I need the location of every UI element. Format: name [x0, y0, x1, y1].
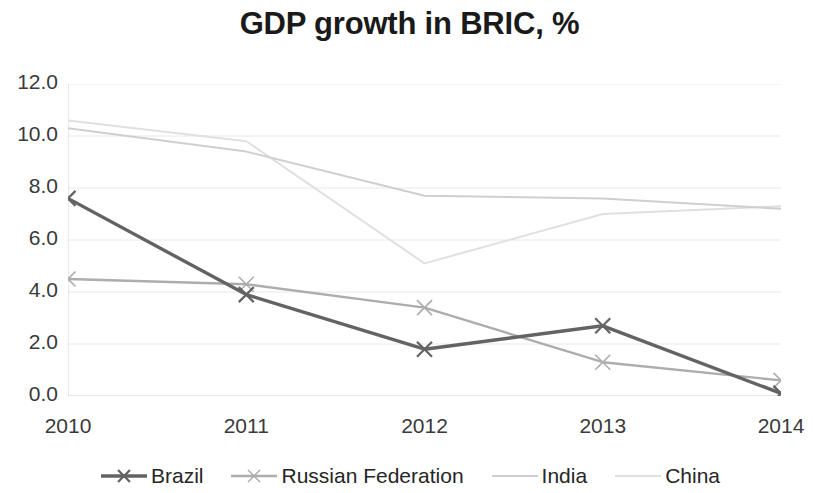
y-axis-tick-label: 4.0 [2, 278, 58, 302]
legend-item-china[interactable]: China [613, 464, 720, 488]
legend-swatch [229, 467, 279, 485]
gdp-growth-chart: GDP growth in BRIC, % 0.02.04.06.08.010.… [0, 0, 819, 493]
legend-label: China [665, 464, 720, 488]
legend-label: Brazil [151, 464, 204, 488]
x-axis-tick-label: 2014 [721, 414, 819, 438]
y-axis-tick-label: 12.0 [2, 70, 58, 94]
data-point-marker [68, 191, 76, 206]
legend-item-india[interactable]: India [490, 464, 588, 488]
legend-swatch [99, 467, 149, 485]
x-axis-tick-label: 2013 [543, 414, 663, 438]
series-india [68, 128, 781, 209]
legend-label: India [542, 464, 588, 488]
y-axis-tick-label: 8.0 [2, 174, 58, 198]
y-axis-tick-label: 0.0 [2, 382, 58, 406]
legend-item-russian-federation[interactable]: Russian Federation [229, 464, 463, 488]
x-axis-tick-label: 2010 [8, 414, 128, 438]
plot-canvas [68, 84, 781, 396]
y-axis-tick-label: 6.0 [2, 226, 58, 250]
plot-area [68, 84, 781, 396]
x-axis-tick-label: 2011 [186, 414, 306, 438]
legend-label: Russian Federation [281, 464, 463, 488]
legend-swatch [490, 467, 540, 485]
series-line [68, 279, 781, 380]
chart-legend: BrazilRussian FederationIndiaChina [0, 458, 819, 493]
series-russian-federation [68, 272, 781, 388]
y-axis-tick-label: 10.0 [2, 122, 58, 146]
x-axis-tick-label: 2012 [365, 414, 485, 438]
y-axis-tick-label: 2.0 [2, 330, 58, 354]
series-line [68, 128, 781, 209]
legend-swatch [613, 467, 663, 485]
chart-title: GDP growth in BRIC, % [0, 6, 819, 42]
legend-item-brazil[interactable]: Brazil [99, 464, 204, 488]
series-brazil [68, 191, 781, 396]
series-line [68, 198, 781, 393]
